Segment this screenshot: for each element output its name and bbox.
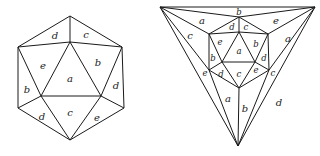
right-face-label: b	[210, 53, 215, 63]
right-face-label: e	[253, 65, 258, 75]
right-edge	[268, 34, 269, 70]
right-edge	[209, 32, 239, 34]
left-face-label: d	[52, 30, 58, 41]
right-face-label: d	[261, 53, 267, 63]
right-face-label: c	[187, 30, 193, 41]
left-face-label: e	[94, 112, 100, 123]
left-face-label: b	[24, 84, 30, 95]
right-face-label: a	[285, 33, 291, 44]
left-face-label: e	[40, 60, 46, 71]
right-face-label: e	[273, 15, 279, 26]
right-face-label: d	[229, 22, 235, 32]
right-face-label: b	[253, 39, 258, 49]
right-face-label: e	[202, 68, 207, 78]
right-face-label: a	[236, 46, 241, 56]
left-edge	[41, 96, 70, 140]
left-face-label: d	[113, 80, 119, 91]
right-face-label: a	[225, 93, 231, 104]
diagram-canvas: dceabbddce baecadceabbdedcecabd	[0, 0, 320, 156]
right-edge	[238, 7, 315, 146]
left-edge	[101, 96, 124, 108]
right-edge	[160, 7, 238, 146]
right-face-label: a	[199, 15, 205, 26]
left-face-label: b	[95, 57, 101, 68]
left-face-label: a	[67, 73, 73, 84]
left-edge	[122, 47, 124, 108]
right-face-label: e	[217, 37, 222, 47]
right-schlegel-figure: baecadceabbdedcecabd	[160, 7, 315, 146]
right-face-label: c	[244, 22, 249, 32]
right-face-label: d	[276, 97, 282, 108]
left-edge	[70, 42, 101, 96]
right-edge	[239, 32, 268, 34]
right-face-label: c	[237, 69, 242, 79]
right-edge	[238, 88, 239, 146]
left-face-label: d	[39, 111, 45, 122]
left-edge	[18, 96, 41, 108]
right-face-label: d	[218, 69, 224, 79]
left-icosahedron-figure: dceabbddce	[18, 16, 124, 140]
right-edge	[209, 70, 239, 88]
right-face-label: c	[271, 68, 276, 78]
right-face-label: b	[242, 103, 248, 114]
left-face-label: c	[67, 107, 73, 118]
right-edge	[209, 70, 238, 146]
right-face-label: b	[236, 7, 241, 17]
left-face-label: c	[83, 29, 89, 40]
